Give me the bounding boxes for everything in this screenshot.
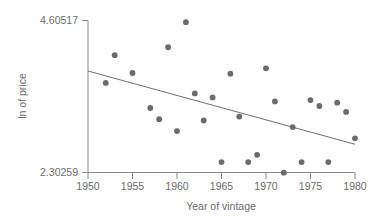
data-point <box>272 98 278 104</box>
data-point <box>308 97 314 103</box>
data-point <box>210 95 216 101</box>
y-axis-title: ln of price <box>16 73 28 119</box>
chart-figure: 4.60517 2.30259 1950 1955 1960 1965 1970… <box>0 0 375 221</box>
data-point <box>299 159 305 165</box>
data-point <box>334 100 340 106</box>
data-point <box>156 116 162 122</box>
data-point <box>183 19 189 25</box>
data-point <box>103 80 109 86</box>
data-point <box>201 118 207 124</box>
x-tick-label-1955: 1955 <box>121 180 145 192</box>
data-points-group <box>103 19 358 175</box>
data-point <box>325 159 331 165</box>
y-tick-label-top: 4.60517 <box>40 14 78 26</box>
data-point <box>147 105 153 111</box>
data-point <box>352 135 358 141</box>
data-point <box>174 128 180 134</box>
x-tick-label-1950: 1950 <box>76 180 100 192</box>
x-axis-title: Year of vintage <box>186 200 256 212</box>
scatter-plot: 4.60517 2.30259 1950 1955 1960 1965 1970… <box>0 0 375 221</box>
data-point <box>254 152 260 158</box>
data-point <box>228 71 234 77</box>
data-point <box>192 91 198 97</box>
data-point <box>219 159 225 165</box>
data-point <box>343 109 349 115</box>
x-tick-label-1980: 1980 <box>343 180 367 192</box>
data-point <box>263 65 269 71</box>
data-point <box>290 124 296 130</box>
data-point <box>317 103 323 109</box>
x-tick-label-1975: 1975 <box>299 180 323 192</box>
x-tick-label-1965: 1965 <box>210 180 234 192</box>
data-point <box>112 52 118 58</box>
data-point <box>245 159 251 165</box>
trend-line <box>88 71 355 144</box>
x-tick-label-1970: 1970 <box>254 180 278 192</box>
y-tick-label-bottom: 2.30259 <box>40 166 78 178</box>
data-point <box>130 70 136 76</box>
data-point <box>281 170 287 176</box>
x-tick-label-1960: 1960 <box>165 180 189 192</box>
data-point <box>165 44 171 50</box>
data-point <box>236 114 242 120</box>
